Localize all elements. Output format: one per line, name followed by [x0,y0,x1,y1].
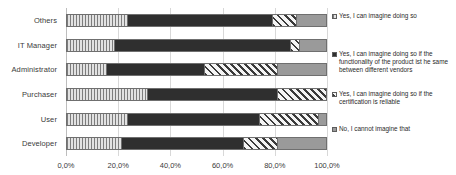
stacked-bar[interactable] [66,113,327,126]
bar-segment-yes-if-functionality[interactable] [127,114,259,125]
bar-segment-no[interactable] [277,64,326,75]
bar-row [66,8,327,33]
legend-label: Yes, I can imagine doing so if the certi… [339,90,454,106]
bar-segment-yes-if-certification[interactable] [259,114,319,125]
bar-segment-yes-if-functionality[interactable] [121,138,243,149]
bar-row [66,131,327,156]
bar-segment-yes-if-functionality[interactable] [127,15,272,26]
bar-row [66,33,327,58]
bar-segment-yes-if-certification[interactable] [290,40,299,51]
category-label: User [0,107,62,132]
bar-segment-yes-if-certification[interactable] [243,138,277,149]
bar-segment-yes-if-functionality[interactable] [106,64,204,75]
value-axis-tick-label: 60,0% [212,161,233,170]
bar-segment-yes-if-certification[interactable] [204,64,277,75]
bar-rows [66,8,327,156]
legend-swatch-icon [332,127,337,132]
bar-segment-yes[interactable] [67,138,121,149]
bar-row [66,82,327,107]
stacked-bar[interactable] [66,88,327,101]
category-label: Administrator [0,57,62,82]
legend-swatch-icon [332,14,337,19]
bar-row [66,107,327,132]
bar-segment-no[interactable] [277,138,326,149]
legend-label: Yes, I can imagine doing so [339,12,417,20]
gridline [327,8,328,156]
bar-segment-no[interactable] [299,40,326,51]
bar-segment-no[interactable] [296,15,326,26]
bar-segment-yes[interactable] [67,40,114,51]
legend-swatch-icon [332,92,337,97]
category-axis: Others IT Manager Administrator Purchase… [0,8,62,156]
category-label: IT Manager [0,33,62,58]
stacked-bar[interactable] [66,63,327,76]
bar-segment-yes-if-certification[interactable] [277,89,326,100]
value-axis-tick-label: 80,0% [264,161,285,170]
category-label: Developer [0,131,62,156]
legend-item[interactable]: Yes, I can imagine doing so if the funct… [332,50,454,75]
stacked-bar[interactable] [66,14,327,27]
plot-area [66,8,327,156]
bar-row [66,57,327,82]
stacked-bar[interactable] [66,137,327,150]
legend-item[interactable]: Yes, I can imagine doing so if the certi… [332,90,454,106]
legend-label: Yes, I can imagine doing so if the funct… [339,50,454,75]
value-axis-tick-label: 100,0% [314,161,339,170]
value-axis-tick-label: 40,0% [160,161,181,170]
category-label: Others [0,8,62,33]
legend-swatch-icon [332,52,337,57]
bar-segment-yes-if-certification[interactable] [272,15,297,26]
bar-segment-no[interactable] [318,114,326,125]
legend-item[interactable]: No, I cannot imagine that [332,125,454,133]
value-axis: 0,0%20,0%40,0%60,0%80,0%100,0% [66,157,327,173]
value-axis-tick-label: 0,0% [57,161,74,170]
bar-segment-yes-if-functionality[interactable] [114,40,290,51]
stacked-bar[interactable] [66,39,327,52]
legend-label: No, I cannot imagine that [339,125,410,133]
bar-segment-yes[interactable] [67,15,127,26]
bar-segment-yes[interactable] [67,114,127,125]
bar-segment-yes[interactable] [67,64,106,75]
stacked-bar-chart: Others IT Manager Administrator Purchase… [0,0,456,175]
legend-item[interactable]: Yes, I can imagine doing so [332,12,454,20]
bar-segment-yes-if-functionality[interactable] [147,89,277,100]
value-axis-tick-label: 20,0% [108,161,129,170]
chart-legend: Yes, I can imagine doing so Yes, I can i… [332,8,454,148]
bar-segment-yes[interactable] [67,89,147,100]
category-label: Purchaser [0,82,62,107]
